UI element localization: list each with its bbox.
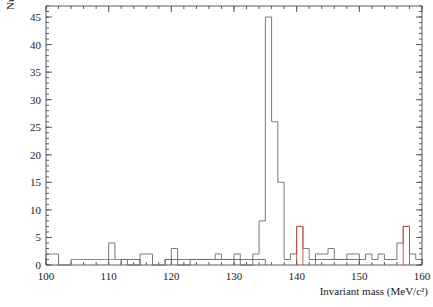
x-tick-label: 150 [351,270,368,282]
y-tick-label: 35 [30,66,42,78]
x-tick-label: 160 [414,270,431,282]
x-tick-label: 130 [226,270,243,282]
x-tick-label: 140 [288,270,305,282]
x-axis-tick-labels: 100110120130140150160 [38,270,431,282]
y-tick-label: 45 [30,11,42,23]
y-tick-label: 25 [30,121,42,133]
histogram-series [46,17,422,265]
histogram-trace-data [46,17,422,265]
y-axis-tick-labels: 051015202530354045 [30,11,42,271]
x-axis-title: Invariant mass (MeV/c²) [320,285,429,298]
x-tick-label: 110 [101,270,118,282]
y-tick-label: 20 [30,149,42,161]
plot-frame [46,6,422,265]
y-tick-label: 30 [30,94,42,106]
x-tick-label: 100 [38,270,55,282]
y-tick-label: 15 [30,176,42,188]
x-tick-label: 120 [163,270,180,282]
y-tick-label: 5 [36,231,42,243]
y-tick-label: 10 [30,204,42,216]
axis-ticks [46,6,422,265]
y-axis-title: Number of events [4,0,16,10]
invariant-mass-histogram-figure: 100110120130140150160 051015202530354045… [0,0,433,307]
y-tick-label: 40 [30,39,42,51]
y-tick-label: 0 [36,259,42,271]
histogram-plot: 100110120130140150160 051015202530354045… [0,0,433,307]
